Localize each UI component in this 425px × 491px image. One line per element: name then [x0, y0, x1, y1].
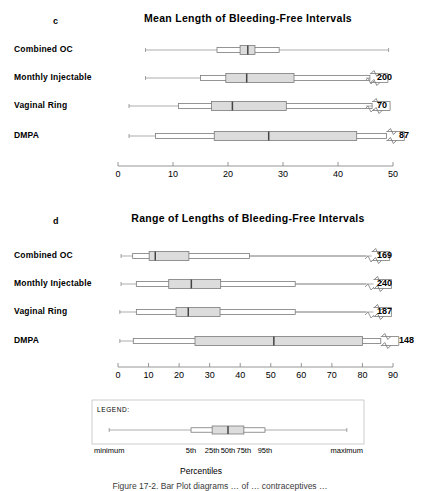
- row-label-combined-oc: Combined OC: [14, 250, 73, 260]
- outer-box-5th-95th: [155, 133, 386, 138]
- row-max-value-label: 148: [399, 335, 414, 345]
- row-max-value-label: 187: [377, 306, 392, 316]
- axis-break-squiggle: [387, 129, 396, 135]
- boxplot-row: [129, 129, 404, 144]
- tail-break-squiggle: [365, 284, 374, 290]
- boxplot-row: [109, 426, 347, 434]
- axis-tick-label: 50: [378, 169, 408, 179]
- row-label-dmpa: DMPA: [14, 335, 39, 345]
- legend-label-95th: 95th: [245, 446, 285, 455]
- panel-letter-d: d: [53, 216, 59, 226]
- row-max-value-label: 87: [399, 130, 409, 140]
- boxplot-row: [146, 71, 388, 86]
- legend-frame: [92, 400, 364, 444]
- figure-caption: Figure 17-2. Bar Plot diagrams … of … co…: [55, 481, 385, 491]
- axis-tick-label: 20: [164, 370, 194, 380]
- boxplot-row: [121, 277, 391, 292]
- row-label-vaginal-ring: Vaginal Ring: [14, 306, 67, 316]
- boxplot-row: [121, 249, 390, 264]
- plot-area-d: [0, 200, 425, 390]
- inner-box-25th-75th: [240, 46, 255, 55]
- inner-box-25th-75th: [212, 102, 287, 111]
- outer-box-5th-95th: [191, 428, 265, 432]
- boxplot-row: [146, 46, 389, 55]
- outer-box-5th-95th: [179, 103, 373, 108]
- axis-tick-label: 30: [195, 370, 225, 380]
- axis-tick-label: 40: [225, 370, 255, 380]
- inner-box-25th-75th: [226, 74, 294, 83]
- row-label-monthly-injectable: Monthly Injectable: [14, 278, 92, 288]
- tail-break-squiggle: [365, 78, 374, 84]
- axis-tick-label: 0: [103, 169, 133, 179]
- outer-box-5th-95th: [133, 338, 381, 343]
- boxplot-row: [129, 99, 390, 114]
- panel-letter-c: c: [53, 16, 58, 26]
- legend-heading: LEGEND:: [97, 406, 130, 413]
- outer-box-5th-95th: [217, 47, 279, 52]
- outer-box-5th-95th: [136, 281, 295, 286]
- row-label-dmpa: DMPA: [14, 130, 39, 140]
- legend-label-minimum: minimum: [89, 446, 129, 455]
- inner-box-25th-75th: [214, 132, 356, 141]
- axis-tick-label: 10: [158, 169, 188, 179]
- boxplot-row: [120, 334, 399, 349]
- row-max-value-label: 200: [377, 72, 392, 82]
- row-label-combined-oc: Combined OC: [14, 44, 73, 54]
- axis-tick-label: 70: [317, 370, 347, 380]
- axis-tick-label: 0: [103, 370, 133, 380]
- panel-title-d: Range of Lengths of Bleeding-Free Interv…: [88, 212, 408, 224]
- row-label-vaginal-ring: Vaginal Ring: [14, 100, 67, 110]
- tail-break-squiggle: [365, 312, 374, 318]
- axis-tick-label: 60: [286, 370, 316, 380]
- inner-box-25th-75th: [195, 337, 362, 346]
- axis-tick-label: 50: [256, 370, 286, 380]
- boxplot-row: [120, 305, 392, 320]
- row-max-value-label: 169: [377, 250, 392, 260]
- boxplot-svg-d: [0, 200, 425, 390]
- x-axis: [118, 363, 393, 367]
- chart-panel-mean-length: c Mean Length of Bleeding-Free Intervals…: [0, 0, 425, 200]
- axis-tick-label: 20: [213, 169, 243, 179]
- inner-box-25th-75th: [212, 426, 244, 434]
- row-max-value-label: 70: [377, 100, 387, 110]
- row-label-monthly-injectable: Monthly Injectable: [14, 72, 92, 82]
- legend-label-maximum: maximum: [327, 446, 367, 455]
- tail-break-squiggle: [365, 106, 374, 112]
- legend-axis-caption: Percentiles: [180, 466, 222, 476]
- x-axis: [118, 162, 393, 166]
- axis-break-squiggle: [382, 343, 391, 349]
- axis-tick-label: 10: [134, 370, 164, 380]
- outer-box-5th-95th: [133, 253, 250, 258]
- panel-title-c: Mean Length of Bleeding-Free Intervals: [88, 12, 408, 24]
- axis-tick-label: 90: [378, 370, 408, 380]
- outer-box-5th-95th: [136, 309, 295, 314]
- axis-break-squiggle: [387, 138, 396, 144]
- inner-box-25th-75th: [176, 308, 220, 317]
- tail-break-squiggle: [365, 256, 374, 262]
- legend-panel: LEGEND: Percentiles minimum5th25th50th75…: [0, 392, 425, 489]
- row-max-value-label: 240: [377, 278, 392, 288]
- axis-tick-label: 80: [347, 370, 377, 380]
- inner-box-25th-75th: [149, 252, 189, 261]
- axis-break-squiggle: [382, 334, 391, 340]
- chart-panel-range-of-lengths: d Range of Lengths of Bleeding-Free Inte…: [0, 200, 425, 390]
- axis-tick-label: 30: [268, 169, 298, 179]
- axis-tick-label: 40: [323, 169, 353, 179]
- inner-box-25th-75th: [169, 280, 221, 289]
- outer-box-5th-95th: [201, 75, 370, 80]
